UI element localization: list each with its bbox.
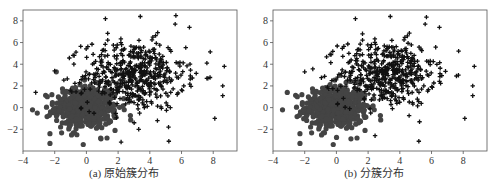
scatter-plot-b: −4−202468−202468 bbox=[250, 0, 495, 189]
panel-b: −4−202468−202468 (b) 分簇分布 bbox=[250, 0, 495, 189]
points bbox=[280, 14, 477, 147]
y-tick-label: 4 bbox=[13, 59, 18, 70]
panel-a: −4−202468−202468 (a) 原始簇分布 bbox=[0, 0, 248, 189]
y-tick-label: 6 bbox=[13, 37, 18, 48]
y-tick-label: 0 bbox=[13, 102, 18, 113]
y-tick-label: 8 bbox=[13, 15, 18, 26]
y-tick-label: −2 bbox=[7, 124, 18, 135]
y-tick-label: −2 bbox=[257, 124, 268, 135]
points bbox=[30, 13, 227, 147]
y-tick-label: 8 bbox=[263, 15, 268, 26]
caption-a: (a) 原始簇分布 bbox=[0, 164, 248, 180]
y-tick-label: 2 bbox=[263, 80, 268, 91]
y-tick-label: 0 bbox=[263, 102, 268, 113]
y-tick-label: 4 bbox=[263, 59, 268, 70]
caption-b: (b) 分簇分布 bbox=[250, 164, 495, 180]
y-tick-label: 2 bbox=[13, 80, 18, 91]
scatter-plot-a: −4−202468−202468 bbox=[0, 0, 248, 189]
y-tick-label: 6 bbox=[263, 37, 268, 48]
